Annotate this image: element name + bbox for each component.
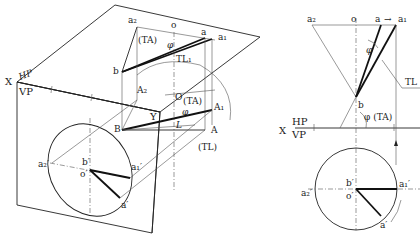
label-vp-right: VP [291,129,306,140]
label-bp-right: b′ [346,178,354,188]
label-op: o′ [80,169,87,179]
label-O: O [175,92,182,102]
label-o: o [171,20,176,30]
label-ap-right: a′ [380,220,387,230]
label-y: Y [149,111,157,122]
label-ap: a′ [121,200,128,210]
label-phi-space: φ [182,107,189,117]
label-a2p: a₂′ [38,159,49,169]
label-a1p: a₁′ [131,162,142,172]
label-b-right: b [358,100,364,110]
label-b: b [113,66,119,76]
label-tl-right: TL [405,77,417,87]
label-phi-ta-right: φ (TA) [364,112,392,122]
arrow-a-to-a1: → [384,14,392,24]
label-L: L [175,120,182,130]
label-ta-space: (TA) [183,96,202,106]
label-tl1: TL₁ [176,54,192,64]
label-op-right: o′ [346,191,353,201]
label-a1: a₁ [218,32,227,42]
left-pictorial-view: X HP VP Y a₂ o a a₁ b (TA) φ TL₁ A₂ O (T… [5,5,260,233]
label-a2-right: a₂ [307,14,316,24]
label-a: a [201,27,207,37]
right-orthographic-view: X HP VP a₂ o a → a₁ b φ TL φ (TA) b′ o′ … [279,14,420,230]
label-vp: VP [18,86,33,97]
label-hp-right: HP [292,116,308,127]
label-bp: b′ [82,157,90,167]
label-a2: a₂ [128,15,137,25]
label-phi-top: φ [167,40,174,50]
line-b-a1 [356,25,396,97]
label-ta-top: (TA) [138,35,157,45]
label-A2: A₂ [136,85,147,95]
label-A: A [210,125,218,135]
label-B: B [114,124,121,134]
label-A1: A₁ [213,102,224,112]
label-hp: HP [16,67,34,82]
label-phi-right: φ [366,45,373,55]
label-o-right: o [351,14,356,24]
horizontal-plane [17,5,260,112]
label-tl-space: (TL) [198,142,217,152]
label-x: X [5,76,13,87]
line-b-a [356,25,381,97]
front-line-op-ap [356,189,381,216]
label-a2p-right: a₂′ [301,188,312,198]
label-a1-right: a₁ [398,14,407,24]
label-x-right: X [279,125,287,136]
descriptive-geometry-figure: X HP VP Y a₂ o a a₁ b (TA) φ TL₁ A₂ O (T… [0,0,420,237]
label-a1p-right: a₁′ [399,179,410,189]
label-a-right: a [375,14,381,24]
